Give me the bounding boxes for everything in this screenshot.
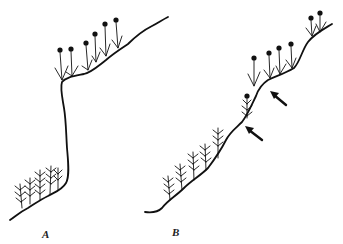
botanical-figure (0, 0, 343, 244)
gametophytes-b (163, 128, 223, 200)
panel-a-drawing (10, 17, 168, 220)
panel-label-a: A (42, 228, 49, 240)
panel-b-drawing (145, 10, 332, 212)
arrow-upper (270, 91, 286, 105)
panel-label-b: B (172, 226, 179, 238)
arrow-lower (245, 126, 262, 140)
sporophytes-a (55, 17, 122, 80)
